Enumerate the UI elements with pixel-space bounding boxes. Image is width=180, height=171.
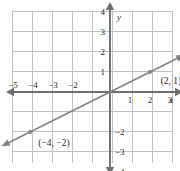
- svg-text:1: 1: [128, 95, 133, 105]
- svg-text:−2: −2: [115, 127, 125, 137]
- graph-figure: −5−4−3−21231234−2−3−4yx(2, 1)(−4, −2): [0, 0, 180, 171]
- svg-text:x: x: [168, 95, 173, 105]
- svg-text:1: 1: [101, 67, 106, 77]
- svg-text:−4: −4: [28, 80, 38, 90]
- tick-labels: −5−4−3−21231234−2−3−4yx(2, 1)(−4, −2): [8, 7, 180, 171]
- svg-text:−3: −3: [115, 147, 125, 157]
- svg-text:(−4, −2): (−4, −2): [38, 138, 69, 149]
- svg-text:−2: −2: [68, 80, 78, 90]
- svg-text:2: 2: [148, 95, 153, 105]
- svg-text:4: 4: [101, 7, 106, 17]
- svg-text:3: 3: [101, 27, 106, 37]
- svg-text:−5: −5: [8, 80, 18, 90]
- svg-text:−3: −3: [48, 80, 58, 90]
- svg-text:2: 2: [101, 47, 106, 57]
- svg-text:−4: −4: [115, 167, 125, 171]
- svg-text:(2, 1): (2, 1): [161, 76, 180, 87]
- coordinate-plane-svg: −5−4−3−21231234−2−3−4yx(2, 1)(−4, −2): [0, 0, 180, 171]
- svg-text:y: y: [116, 12, 121, 22]
